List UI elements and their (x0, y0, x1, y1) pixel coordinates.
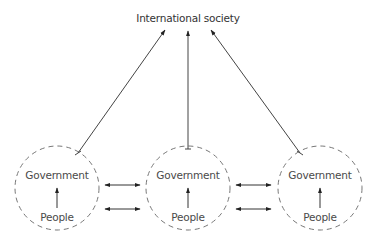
arrow-right-to-society (211, 30, 300, 153)
people-label-middle: People (171, 211, 205, 223)
international-society-label: International society (136, 12, 240, 24)
people-label-left: People (40, 211, 74, 223)
government-label-middle: Government (156, 169, 219, 181)
people-label-right: People (303, 211, 337, 223)
arrow-left-to-society (78, 30, 165, 153)
government-label-left: Government (25, 169, 88, 181)
tick-right (297, 151, 303, 155)
government-label-right: Government (288, 169, 351, 181)
